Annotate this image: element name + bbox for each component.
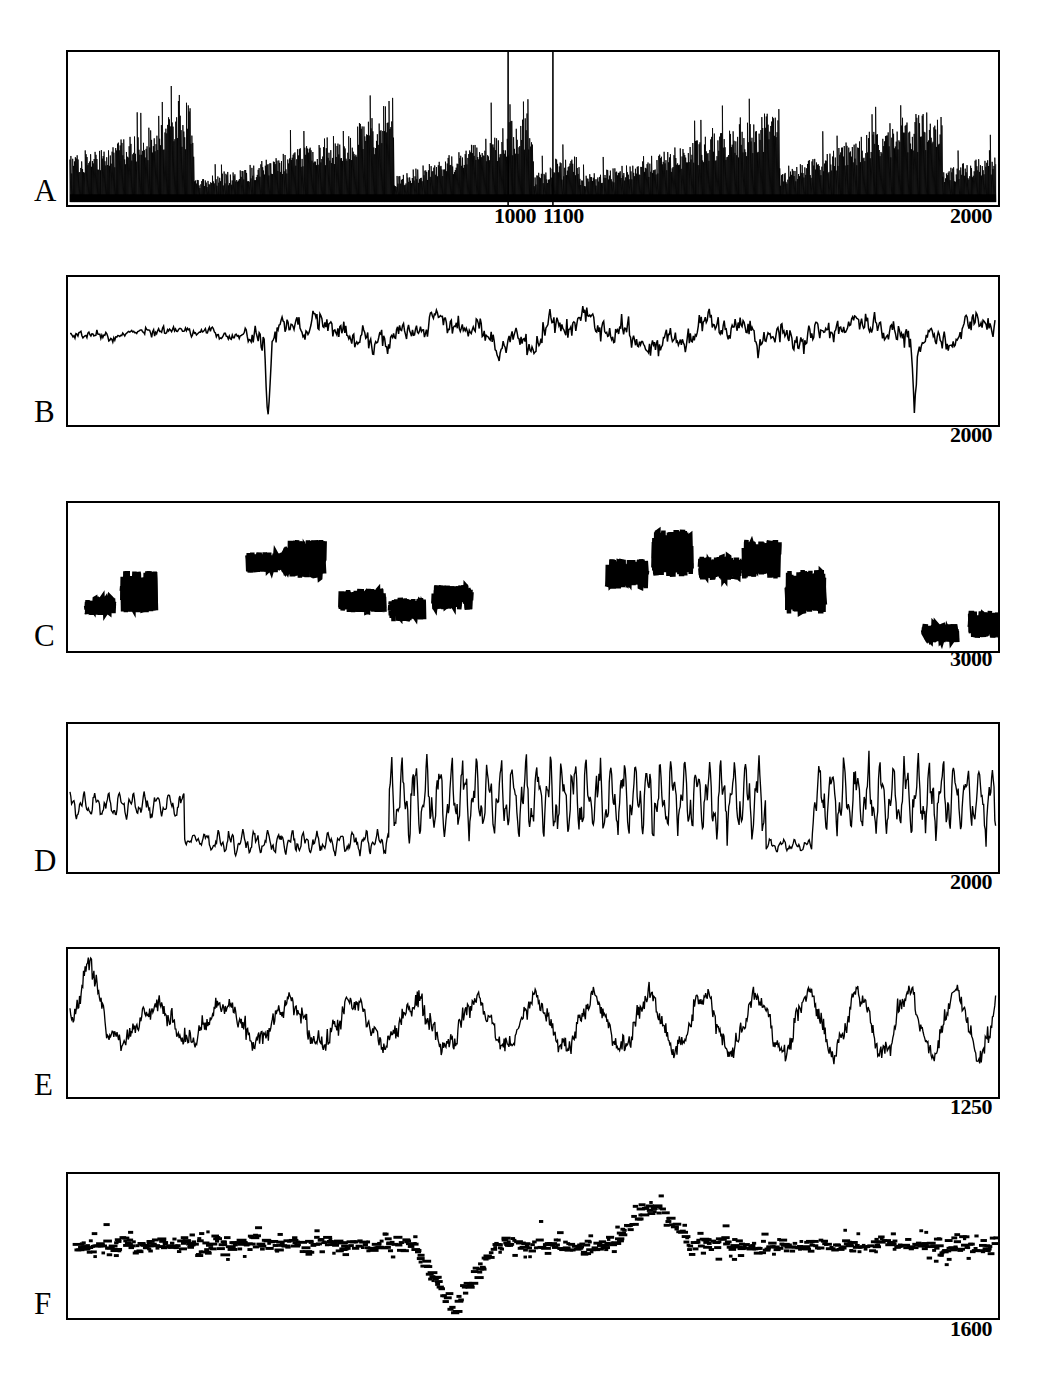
panel-d-trace (68, 724, 998, 872)
panel-e-right-label: 1250 (930, 1096, 992, 1118)
panel-a-trace (68, 52, 998, 205)
figure-six-panel-timeseries: A 1000 1100 2000 B 2000 C 3000 (0, 0, 1038, 1380)
panel-a-plot-area (66, 50, 1000, 207)
panel-d-letter: D (34, 845, 56, 876)
panel-c-trace (68, 503, 998, 651)
panel-c-right-label: 3000 (930, 648, 992, 670)
panel-c-plot-area (66, 501, 1000, 653)
panel-e-letter: E (34, 1069, 53, 1100)
panel-a-inner-label-1100: 1100 (543, 205, 584, 227)
panel-f-plot-area (66, 1172, 1000, 1320)
panel-f-trace (68, 1174, 998, 1318)
panel-b-letter: B (34, 396, 55, 427)
panel-b-trace (68, 277, 998, 425)
panel-e-trace (68, 949, 998, 1097)
panel-d-plot-area (66, 722, 1000, 874)
panel-a-letter: A (34, 175, 56, 206)
panel-b-plot-area (66, 275, 1000, 427)
panel-b-right-label: 2000 (930, 424, 992, 446)
panel-a-right-label: 2000 (930, 205, 992, 227)
panel-f-right-label: 1600 (930, 1318, 992, 1340)
panel-c-letter: C (34, 620, 55, 651)
panel-e-plot-area (66, 947, 1000, 1099)
panel-a-inner-label-1000: 1000 (494, 205, 536, 227)
panel-f-letter: F (34, 1288, 51, 1319)
panel-d-right-label: 2000 (930, 871, 992, 893)
